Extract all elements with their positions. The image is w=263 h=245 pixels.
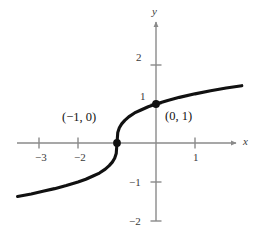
x-tick-label--2: −2 — [74, 152, 86, 163]
graph-figure: y x 2 1 −1 −2 −3 −2 1 (−1, 0) (0, 1) — [0, 0, 263, 245]
point-marker-x-intercept — [113, 139, 121, 147]
y-axis-label: y — [152, 6, 157, 17]
y-tick-label-2: 2 — [136, 52, 142, 63]
plot-canvas — [0, 0, 263, 245]
y-tick-label--2: −2 — [129, 216, 141, 227]
x-tick-label--3: −3 — [35, 152, 47, 163]
y-tick-label-1: 1 — [140, 91, 146, 102]
point-marker-y-intercept — [152, 100, 160, 108]
x-tick-label-1: 1 — [193, 152, 199, 163]
x-axis-label: x — [243, 136, 248, 147]
annotation-y-intercept: (0, 1) — [165, 110, 192, 123]
y-tick-label--1: −1 — [129, 177, 141, 188]
annotation-x-intercept: (−1, 0) — [62, 111, 96, 124]
